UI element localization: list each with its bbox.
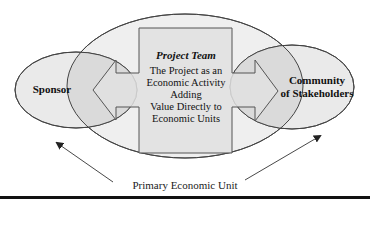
sponsor-label: Sponsor [22,83,82,96]
primary-economic-unit-caption: Primary Economic Unit [115,179,255,192]
project-team-title: Project Team [132,49,240,62]
community-label-line2: of Stakeholders [274,87,360,100]
project-team-line-2: Economic Activity [132,77,240,89]
community-label: Community of Stakeholders [274,74,360,99]
community-label-line1: Community [274,74,360,87]
project-team-line-1: The Project as an [132,65,240,77]
bottom-rule [0,196,370,199]
arrow-to-sponsor [57,143,113,182]
project-team-line-5: Economic Units [132,113,240,125]
project-team-text: Project Team The Project as an Economic … [132,49,240,125]
project-team-line-3: Adding [132,89,240,101]
project-team-line-4: Value Directly to [132,101,240,113]
